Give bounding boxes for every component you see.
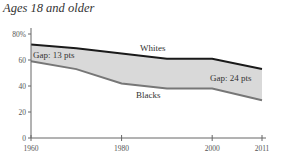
- chart-canvas: 020406080% 1960198020002011 Gap: 13 pts …: [0, 0, 282, 158]
- annotation-gap-1960: Gap: 13 pts: [33, 50, 75, 60]
- label-whites: Whites: [140, 43, 166, 53]
- y-axis-ticks: 020406080%: [12, 30, 31, 143]
- x-tick-label: 2011: [255, 144, 270, 153]
- y-tick-label: 20: [19, 108, 27, 117]
- x-tick-label: 1960: [24, 144, 39, 153]
- y-tick-label: 80%: [12, 30, 26, 39]
- y-tick-label: 40: [19, 82, 27, 91]
- x-tick-label: 1980: [114, 144, 129, 153]
- annotation-gap-2011: Gap: 24 pts: [210, 73, 252, 83]
- x-tick-label: 2000: [205, 144, 220, 153]
- y-tick-label: 60: [19, 56, 27, 65]
- label-blacks: Blacks: [136, 90, 161, 100]
- y-tick-label: 0: [22, 134, 26, 143]
